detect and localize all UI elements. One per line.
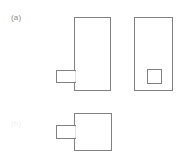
upper-right-figure [135, 18, 173, 91]
schematic-line-drawing [0, 0, 183, 161]
panel-label-b: (b) [11, 120, 21, 128]
upper-left-tab [57, 71, 76, 83]
upper-left-figure [57, 18, 111, 91]
lower-body [75, 114, 112, 151]
upper-right-inner-square [148, 70, 162, 84]
lower-figure [57, 114, 112, 151]
figure-container: (a) (b) [0, 0, 183, 161]
upper-left-body [75, 18, 111, 91]
lower-tab [57, 126, 76, 139]
panel-label-a: (a) [11, 14, 21, 22]
